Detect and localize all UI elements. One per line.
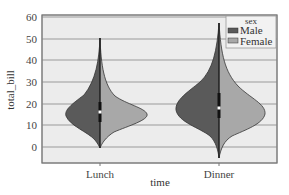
y-tick: 40 xyxy=(26,54,38,66)
x-axis-label: time xyxy=(150,176,170,188)
y-tick: 60 xyxy=(26,11,38,23)
box-dinner xyxy=(218,93,221,118)
legend-swatch-female xyxy=(228,38,238,43)
y-tick: 50 xyxy=(26,33,38,45)
y-tick: 10 xyxy=(26,119,38,131)
median-lunch xyxy=(99,111,102,114)
y-tick: 30 xyxy=(26,76,38,88)
y-tick: 0 xyxy=(32,141,38,153)
legend-label-female: Female xyxy=(240,35,272,47)
y-tick: 20 xyxy=(26,98,38,110)
legend: sex Male Female xyxy=(226,16,276,48)
x-tick-dinner: Dinner xyxy=(204,168,235,180)
y-axis-label: total_bill xyxy=(4,70,16,110)
legend-swatch-male xyxy=(228,28,238,33)
median-dinner xyxy=(218,107,221,110)
x-tick-lunch: Lunch xyxy=(86,168,115,180)
violin-chart: 60 50 40 30 20 10 0 total_bill Lunch Din… xyxy=(0,0,289,195)
y-axis: 60 50 40 30 20 10 0 xyxy=(26,11,38,153)
